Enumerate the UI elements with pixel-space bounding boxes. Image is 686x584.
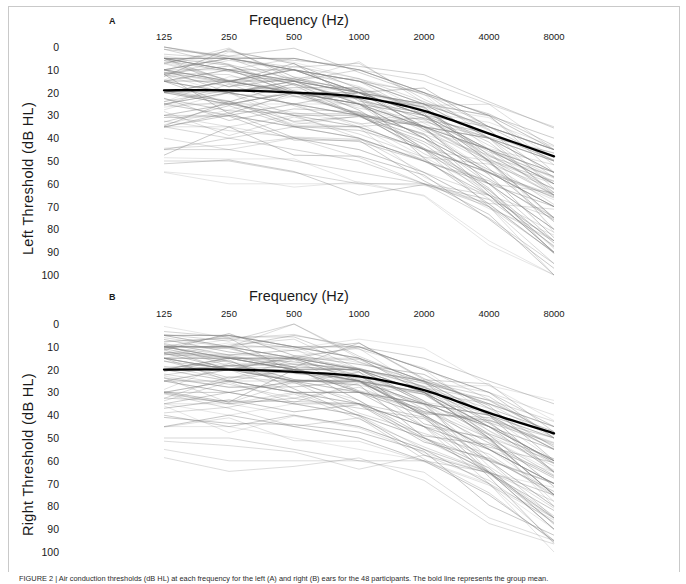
subject-line (164, 370, 554, 450)
figure-caption: FIGURE 2 | Air conduction thresholds (dB… (19, 573, 685, 584)
subject-line (164, 366, 554, 516)
figure-frame: A Frequency (Hz) Left Threshold (dB HL) … (8, 6, 680, 572)
subject-line (164, 370, 554, 450)
subject-line (164, 343, 554, 461)
subject-line (164, 332, 554, 472)
panel-b-plot-area (9, 7, 686, 567)
